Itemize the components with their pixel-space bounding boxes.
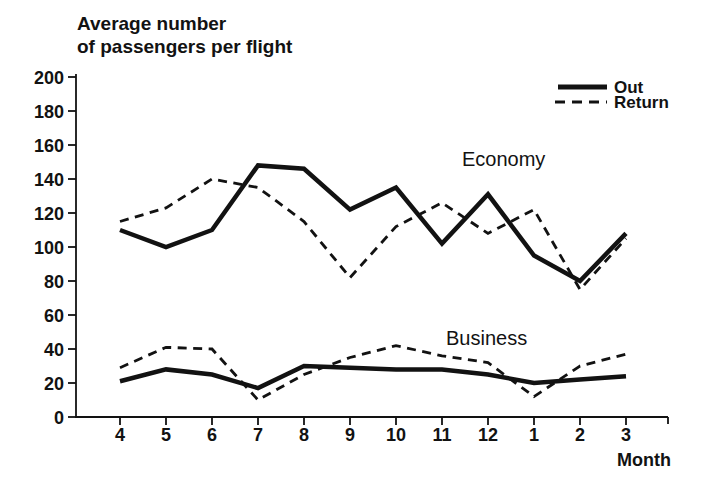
y-tick-label: 120 — [34, 204, 64, 224]
x-tick-label: 5 — [161, 425, 171, 445]
y-tick-marks — [68, 77, 76, 417]
x-tick-label: 7 — [253, 425, 263, 445]
x-tick-label: 8 — [299, 425, 309, 445]
x-tick-label: 4 — [115, 425, 125, 445]
x-tick-label: 10 — [386, 425, 406, 445]
y-tick-label: 200 — [34, 68, 64, 88]
legend-return-label: Return — [614, 93, 669, 112]
chart-figure: Average number of passengers per flight … — [0, 0, 712, 493]
x-axis-title: Month — [617, 450, 671, 470]
y-tick-label: 100 — [34, 238, 64, 258]
y-tick-label: 140 — [34, 170, 64, 190]
series-economy-out-line — [120, 165, 626, 281]
y-tick-label: 160 — [34, 136, 64, 156]
line-chart: 020406080100120140160180200 456789101112… — [0, 0, 712, 493]
series-lines — [120, 165, 626, 400]
x-tick-label: 3 — [621, 425, 631, 445]
economy-series-annotation: Economy — [462, 148, 545, 170]
y-tick-label: 40 — [44, 340, 64, 360]
y-tick-label: 80 — [44, 272, 64, 292]
business-series-annotation: Business — [446, 327, 527, 349]
y-tick-label: 0 — [54, 408, 64, 428]
x-tick-label: 12 — [478, 425, 498, 445]
x-tick-label: 11 — [432, 425, 451, 445]
legend: Out Return — [555, 78, 669, 112]
y-tick-label: 20 — [44, 374, 64, 394]
y-tick-label: 180 — [34, 102, 64, 122]
x-tick-label: 9 — [345, 425, 355, 445]
y-tick-label: 60 — [44, 306, 64, 326]
x-tick-marks — [120, 417, 668, 425]
y-tick-labels: 020406080100120140160180200 — [34, 68, 64, 428]
x-tick-label: 6 — [207, 425, 217, 445]
x-tick-label: 1 — [529, 425, 539, 445]
x-tick-label: 2 — [575, 425, 585, 445]
x-tick-labels: 456789101112123 — [115, 425, 631, 445]
